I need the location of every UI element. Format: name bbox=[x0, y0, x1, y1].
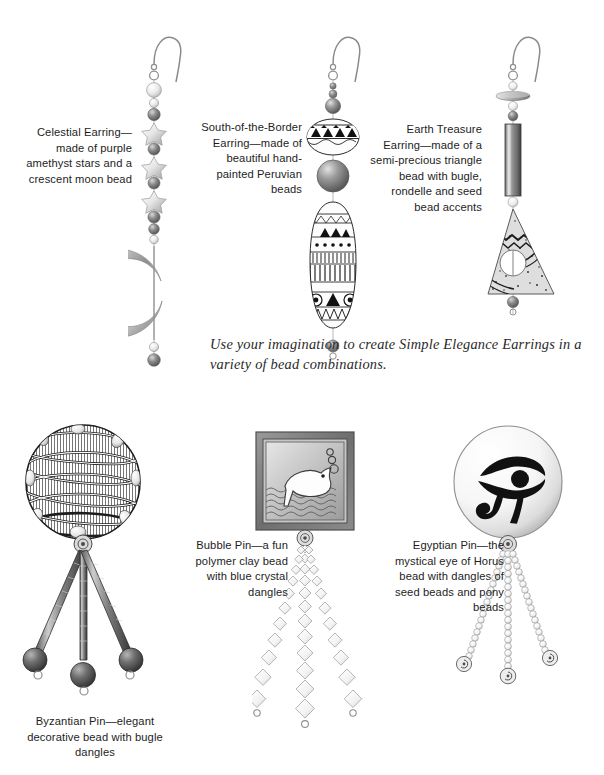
end-loop bbox=[350, 710, 356, 716]
south-of-the-border-earring-illustration bbox=[300, 24, 370, 364]
painted-teardrop-bead bbox=[306, 202, 362, 328]
seed-bead bbox=[509, 82, 517, 90]
bugle-dangle bbox=[23, 550, 85, 679]
byzantian-pin-caption: Byzantian Pin—elegant decorative bead wi… bbox=[10, 714, 180, 761]
amethyst-bead bbox=[148, 354, 161, 367]
bubble-pin-caption: Bubble Pin—a fun polymer clay bead with … bbox=[176, 538, 288, 600]
celestial-earring-caption: Celestial Earring—made of purple amethys… bbox=[12, 125, 132, 187]
ear-wire-loop bbox=[330, 64, 335, 69]
earth-treasure-earring-illustration bbox=[482, 24, 568, 334]
celestial-earring-svg bbox=[128, 24, 192, 374]
ear-wire-loop bbox=[151, 64, 156, 69]
south-of-the-border-earring-caption: South-of-the-Border Earring—made of beau… bbox=[190, 120, 302, 198]
seed-bead bbox=[149, 342, 158, 351]
amethyst-bead bbox=[148, 143, 160, 155]
south-of-the-border-earring-svg bbox=[300, 24, 370, 364]
eye-of-horus-bead bbox=[454, 426, 562, 538]
seed-bead bbox=[508, 111, 518, 121]
bead-cap bbox=[74, 535, 92, 553]
ear-wire-loop bbox=[510, 64, 515, 69]
crystal-dangle bbox=[305, 546, 362, 708]
celestial-earring-illustration bbox=[128, 24, 192, 374]
seed-bead bbox=[150, 235, 159, 244]
pony-bead bbox=[542, 650, 557, 665]
amethyst-bead bbox=[148, 177, 160, 189]
seed-bead bbox=[329, 90, 337, 98]
seed-bead bbox=[330, 83, 336, 89]
seed-bead-dangle bbox=[505, 551, 512, 670]
crescent-moon-bead bbox=[128, 249, 162, 337]
amethyst-bead bbox=[149, 224, 160, 235]
byzantian-pin-illustration bbox=[18, 420, 178, 710]
amethyst-bead bbox=[148, 211, 160, 223]
jump-ring bbox=[329, 71, 338, 80]
painted-disc-bead bbox=[307, 119, 361, 155]
bugle-dangle bbox=[81, 550, 143, 679]
seed-bead bbox=[507, 296, 518, 307]
end-loop bbox=[254, 710, 260, 716]
end-loop bbox=[302, 721, 309, 728]
illustration-page: Celestial Earring—made of purple amethys… bbox=[0, 0, 604, 775]
byzantian-decorative-bead bbox=[23, 424, 147, 539]
amethyst-bead bbox=[148, 108, 160, 120]
earth-treasure-earring-svg bbox=[482, 24, 568, 334]
fish-square-bead bbox=[256, 432, 354, 530]
triangle-bead bbox=[488, 209, 554, 295]
tagline: Use your imagination to create Simple El… bbox=[210, 334, 588, 374]
earth-treasure-earring-caption: Earth Treasure Earring—made of a semi-pr… bbox=[370, 122, 482, 216]
pony-bead bbox=[500, 668, 516, 684]
bugle-bead bbox=[505, 124, 521, 196]
round-end-bead bbox=[23, 648, 47, 672]
jump-ring bbox=[509, 71, 518, 80]
seed-bead bbox=[147, 83, 162, 98]
seed-bead bbox=[508, 197, 518, 207]
seed-bead-dangle bbox=[510, 551, 549, 654]
seed-bead bbox=[508, 101, 517, 110]
round-bead bbox=[317, 160, 349, 192]
rondelle-bead bbox=[496, 91, 530, 101]
end-loop bbox=[34, 671, 42, 679]
jump-ring bbox=[150, 71, 159, 80]
byzantian-pin-svg bbox=[18, 420, 178, 710]
pony-bead bbox=[456, 656, 471, 671]
round-end-bead bbox=[71, 663, 96, 688]
bead-cap bbox=[297, 530, 313, 546]
round-end-bead bbox=[119, 648, 143, 672]
egyptian-pin-caption: Egyptian Pin—the mystical eye of Horus b… bbox=[392, 538, 504, 616]
end-loop bbox=[80, 687, 88, 695]
seed-bead bbox=[149, 98, 158, 107]
round-bead bbox=[325, 98, 340, 113]
